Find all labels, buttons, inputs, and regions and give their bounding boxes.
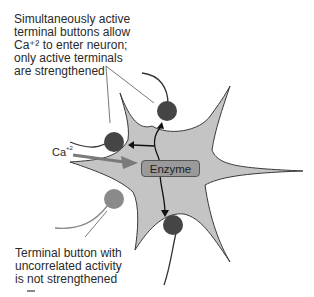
ion-symbol: Ca <box>52 146 66 158</box>
figure-mark <box>27 290 35 292</box>
uncorrelated-terminal-caption: Terminal button with uncorrelated activi… <box>15 247 125 286</box>
axon-lower-left <box>55 205 108 228</box>
enzyme-box: Enzyme <box>141 160 200 177</box>
terminal-button-top <box>157 101 177 121</box>
ion-charge: +2 <box>66 145 73 151</box>
terminal-button-lower-left <box>104 189 124 209</box>
arrow-up-icon <box>157 122 164 129</box>
active-terminals-caption: Simultaneously active terminal buttons a… <box>14 13 174 78</box>
neuron-diagram: Simultaneously active terminal buttons a… <box>0 0 314 297</box>
axon-bottom <box>164 233 176 285</box>
pointer-line-bottom <box>85 211 107 237</box>
calcium-ion-label: Ca+2 <box>52 146 73 158</box>
terminal-button-bottom <box>163 215 183 235</box>
terminal-button-left <box>104 132 124 152</box>
